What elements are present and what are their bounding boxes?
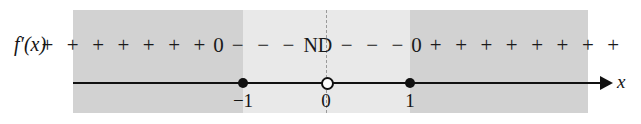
sign-symbol: + (194, 33, 206, 58)
sign-symbol: − (257, 33, 269, 58)
sign-symbol: + (92, 33, 104, 58)
sign-symbol: + (582, 33, 594, 58)
sign-symbol: + (557, 33, 569, 58)
sign-symbol: − (283, 33, 295, 58)
sign-symbol: + (117, 33, 129, 58)
sign-symbol: + (143, 33, 155, 58)
sign-symbol: + (455, 33, 467, 58)
zero-marker-left: 0 (213, 33, 224, 58)
undefined-marker: ND (303, 34, 332, 57)
sign-symbol: + (531, 33, 543, 58)
sign-symbol: + (506, 33, 518, 58)
minus-run-left: −−− (225, 33, 301, 58)
plus-run-left: +++++++ (35, 33, 212, 58)
tick-label-pos1: 1 (390, 90, 430, 112)
sign-symbol: + (430, 33, 442, 58)
shaded-band-left (73, 10, 243, 113)
sign-symbol: + (67, 33, 79, 58)
sign-symbol: − (232, 33, 244, 58)
sign-symbol: − (391, 33, 403, 58)
critical-point-dot-neg1 (238, 78, 248, 88)
axis-label-x: x (617, 71, 625, 93)
zero-marker-right: 0 (411, 33, 422, 58)
minus-run-right: −−− (334, 33, 410, 58)
number-line-axis (73, 82, 608, 84)
sign-sequence-row: +++++++ 0 −−− ND −−− 0 ++++++++ (73, 31, 588, 59)
sign-symbol: − (341, 33, 353, 58)
sign-symbol: + (607, 33, 619, 58)
tick-label-neg1: −1 (223, 90, 263, 112)
sign-chart-figure: f′(x) +++++++ 0 −−− ND −−− 0 ++++++++ x … (0, 0, 641, 124)
critical-point-dot-zero (321, 77, 334, 90)
shaded-band-right (410, 10, 588, 113)
axis-arrow-icon (600, 76, 613, 90)
sign-symbol: − (366, 33, 378, 58)
sign-symbol: + (481, 33, 493, 58)
tick-label-zero: 0 (306, 90, 346, 112)
sign-symbol: + (168, 33, 180, 58)
sign-symbol: + (41, 33, 53, 58)
critical-point-dot-pos1 (405, 78, 415, 88)
plus-run-right: ++++++++ (423, 33, 626, 58)
